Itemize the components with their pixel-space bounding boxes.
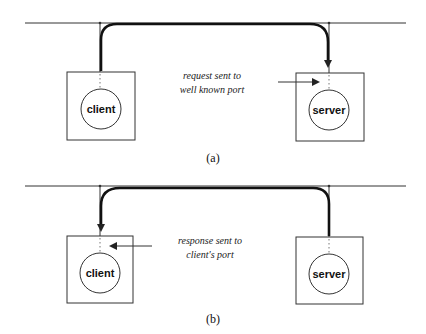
server-node: server	[296, 237, 363, 304]
request-note-line1: request sent to	[183, 70, 241, 81]
server-node: server	[296, 73, 364, 141]
response-flow-arrow	[101, 188, 329, 236]
response-note-line2: client's port	[186, 249, 234, 260]
request-flow-arrow	[101, 24, 328, 71]
server-label: server	[312, 104, 346, 116]
response-note-line1: response sent to	[178, 235, 242, 246]
caption-a: (a)	[206, 151, 219, 165]
diagram-canvas: client server request sent to well known…	[0, 0, 426, 334]
client-node: client	[67, 72, 135, 140]
caption-b: (b)	[206, 312, 220, 326]
client-label: client	[86, 267, 115, 279]
request-note-line2: well known port	[180, 84, 245, 95]
panel-b: client server response sent to client's …	[25, 185, 406, 326]
panel-a: client server request sent to well known…	[25, 22, 406, 165]
client-label: client	[87, 103, 116, 115]
server-label: server	[312, 268, 346, 280]
